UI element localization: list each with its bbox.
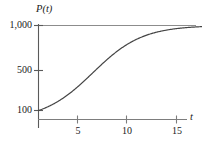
y-axis-label: P(t) [36,4,52,15]
x-axis-label: t [190,112,193,123]
x-tick-label-5: 5 [64,126,92,136]
x-tick-label-15: 15 [163,126,191,136]
y-tick-label-100: 100 [0,105,32,115]
y-tick-label-1000: 1,000 [0,20,32,30]
logistic-growth-chart: 1,000 500 100 5 10 15 P(t) t [0,0,202,141]
x-tick-label-10: 10 [113,126,141,136]
y-tick-label-500: 500 [0,65,32,75]
logistic-curve [39,27,202,111]
